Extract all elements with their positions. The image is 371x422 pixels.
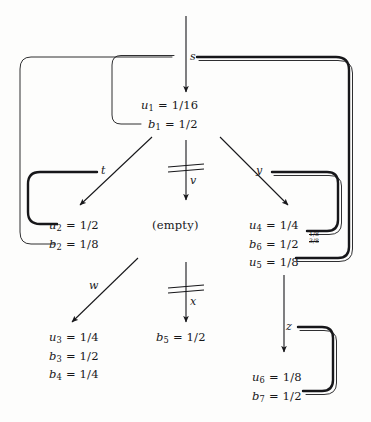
node-left-line-1: u2 = 1/2: [49, 218, 99, 237]
node-right-line-3: u5 = 1/8: [249, 255, 299, 274]
node-root-line-2: b1 = 1/2: [141, 117, 198, 136]
sub-u2: 2: [57, 223, 62, 233]
sub-u5: 5: [257, 260, 262, 270]
edge-label-t: t: [101, 164, 105, 177]
var-u3: u: [49, 330, 57, 344]
var-u5: u: [249, 255, 257, 269]
diagram-page: s t v y w x z u1 = 1/16 b1 = 1/2 u2 = 1/…: [0, 0, 371, 422]
var-u4: u: [249, 218, 257, 232]
node-bottom-left: u3 = 1/4 b3 = 1/2 b4 = 1/4: [49, 330, 99, 386]
val-b4: = 1/4: [66, 367, 99, 381]
val-u1: = 1/16: [158, 98, 198, 112]
val-b7: = 1/2: [269, 389, 302, 403]
val-b6: = 1/2: [266, 237, 299, 251]
var-u6: u: [252, 370, 260, 384]
edge-label-y: y: [256, 164, 262, 177]
sub-b1: 1: [156, 122, 161, 132]
edge-label-s: s: [190, 50, 196, 63]
val-u3: = 1/4: [66, 330, 99, 344]
val-u6: = 1/8: [269, 370, 302, 384]
val-u5: = 1/8: [266, 255, 299, 269]
edge-x: [168, 262, 204, 322]
node-bottom-left-line-2: b3 = 1/2: [49, 349, 99, 368]
sub-u1: 1: [149, 103, 154, 113]
node-bottom-right-line-1: u6 = 1/8: [252, 370, 302, 389]
annotation-fraction-bottom: 3/8: [309, 238, 319, 245]
node-bottom-right-line-2: b7 = 1/2: [252, 389, 302, 408]
var-u2: u: [49, 218, 57, 232]
loop-z: [298, 327, 337, 395]
node-right-line-2: b6 = 1/2: [249, 237, 299, 256]
var-b2: b: [49, 237, 57, 251]
sub-b6: 6: [257, 242, 262, 252]
edge-w: [72, 258, 138, 322]
annotation-fraction-pair: 1/8 3/8: [309, 231, 319, 244]
var-b6: b: [249, 237, 257, 251]
node-left: u2 = 1/2 b2 = 1/8: [49, 218, 99, 255]
node-bottom-center-line-1: b5 = 1/2: [156, 330, 206, 349]
edge-label-x: x: [190, 295, 196, 308]
val-b3: = 1/2: [66, 349, 99, 363]
edge-label-v: v: [190, 174, 196, 187]
sub-b5: 5: [164, 335, 169, 345]
sub-b7: 7: [260, 394, 265, 404]
var-b5: b: [156, 330, 164, 344]
var-b7: b: [252, 389, 260, 403]
val-u4: = 1/4: [266, 218, 299, 232]
sub-u3: 3: [57, 335, 62, 345]
node-root-line-1: u1 = 1/16: [141, 98, 198, 117]
node-bottom-left-line-3: b4 = 1/4: [49, 367, 99, 386]
sub-b4: 4: [57, 372, 62, 382]
node-bottom-right: u6 = 1/8 b7 = 1/2: [252, 370, 302, 407]
val-b5: = 1/2: [173, 330, 206, 344]
var-b3: b: [49, 349, 57, 363]
val-u2: = 1/2: [66, 218, 99, 232]
val-b2: = 1/8: [66, 237, 99, 251]
var-b4: b: [49, 367, 57, 381]
sub-b2: 2: [57, 242, 62, 252]
sub-u6: 6: [260, 375, 265, 385]
node-center-empty: (empty): [152, 218, 199, 232]
sub-b3: 3: [57, 354, 62, 364]
node-left-line-2: b2 = 1/8: [49, 237, 99, 256]
node-right-line-1: u4 = 1/4: [249, 218, 299, 237]
edge-label-w: w: [89, 279, 98, 292]
sub-u4: 4: [257, 223, 262, 233]
node-root: u1 = 1/16 b1 = 1/2: [141, 98, 198, 135]
val-b1: = 1/2: [165, 117, 198, 131]
var-b1: b: [148, 117, 156, 131]
node-bottom-center: b5 = 1/2: [156, 330, 206, 349]
var-u1: u: [141, 98, 149, 112]
node-right: u4 = 1/4 b6 = 1/2 u5 = 1/8: [249, 218, 299, 274]
edge-label-z: z: [286, 320, 292, 333]
edge-v: [168, 140, 204, 200]
node-bottom-left-line-1: u3 = 1/4: [49, 330, 99, 349]
loop-left-outer: [20, 57, 172, 244]
